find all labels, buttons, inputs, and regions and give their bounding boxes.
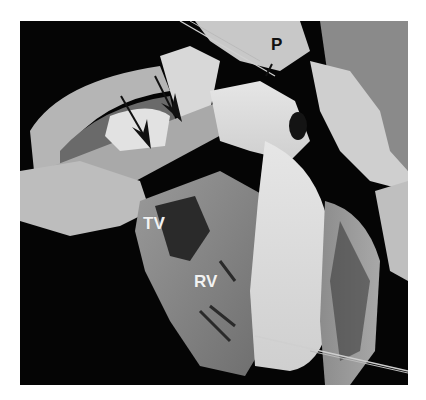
label-tv: TV [143,215,165,232]
label-rv: RV [194,273,217,290]
heart-specimen-illustration [20,21,408,385]
specimen-photograph: P TV RV [20,21,408,385]
label-p: P [271,36,282,53]
